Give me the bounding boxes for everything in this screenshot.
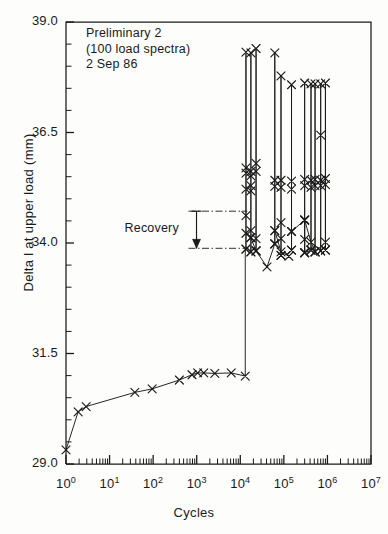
- figure-canvas: 29.031.534.036.539.0 1001011021031041051…: [0, 0, 388, 534]
- x-tick-label: 107: [349, 475, 388, 491]
- x-tick-label: 106: [305, 475, 349, 491]
- x-tick-label-group: 100101102103104105106107: [0, 0, 388, 534]
- recovery-label: Recovery: [125, 221, 179, 235]
- figure-annotation-block: Preliminary 2 (100 load spectra) 2 Sep 8…: [86, 26, 190, 73]
- annotation-line-2: (100 load spectra): [86, 42, 190, 58]
- y-axis-title: Delta l at upper load (mm): [21, 103, 36, 323]
- x-tick-label: 103: [175, 475, 219, 491]
- annotation-line-3: 2 Sep 86: [86, 57, 190, 73]
- x-tick-label: 104: [218, 475, 262, 491]
- x-axis-title: Cycles: [0, 505, 388, 520]
- x-tick-label: 101: [88, 475, 132, 491]
- x-tick-label: 100: [44, 475, 88, 491]
- x-tick-label: 102: [131, 475, 175, 491]
- annotation-line-1: Preliminary 2: [86, 26, 190, 42]
- x-tick-label: 105: [262, 475, 306, 491]
